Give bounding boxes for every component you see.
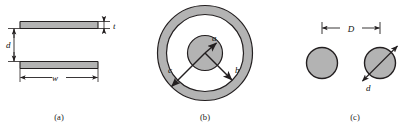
left-conductor-circle (307, 48, 338, 79)
caption-panel-b: (b) (160, 112, 250, 122)
radius-a-label: a (212, 33, 217, 43)
diameter-label: d (366, 83, 371, 93)
transmission-line-figure: t d w (0, 0, 418, 133)
panel-coaxial: a b c (158, 6, 253, 101)
width-label: w (52, 73, 58, 83)
panel-two-wire: D d (307, 22, 398, 93)
caption-panel-a: (a) (0, 112, 118, 122)
top-plate (20, 22, 98, 29)
bottom-plate (20, 62, 98, 69)
thickness-dimension (98, 18, 110, 33)
spacing-label: D (347, 24, 355, 34)
separation-label: d (6, 40, 11, 50)
width-dimension (20, 69, 98, 83)
caption-panel-c: (c) (310, 112, 400, 122)
radius-c-label: c (168, 65, 172, 75)
panel-parallel-plate: t d w (6, 18, 116, 83)
thickness-label: t (113, 21, 116, 31)
radius-b-label: b (235, 65, 240, 75)
